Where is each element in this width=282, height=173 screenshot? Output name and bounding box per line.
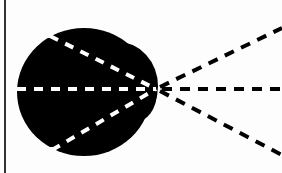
ray-diagram <box>0 0 282 173</box>
dark-blob <box>17 28 158 156</box>
outer-ray-upper <box>160 28 282 87</box>
outer-rays <box>160 28 282 155</box>
outer-ray-lower <box>160 91 282 155</box>
diagram-canvas <box>0 0 282 173</box>
